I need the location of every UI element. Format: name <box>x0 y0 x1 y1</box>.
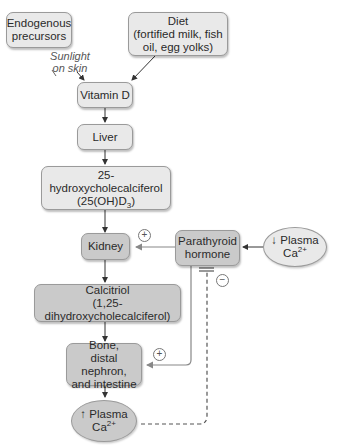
node-text: Calcitriol <box>85 284 129 297</box>
node-text: ↑ Plasma <box>80 408 127 421</box>
node-diet: Diet (fortified milk, fish oil, egg yolk… <box>128 12 228 56</box>
node-text: Diet <box>168 15 188 28</box>
node-endogenous-precursors: Endogenous precursors <box>6 12 72 48</box>
node-text: oil, egg yolks) <box>143 41 213 54</box>
minus-feedback-icon: − <box>216 274 229 287</box>
label-sunlight-on-skin: Sunlight on skin <box>42 50 98 74</box>
plus-kidney-icon: + <box>138 229 151 242</box>
node-text: (fortified milk, fish <box>133 28 222 41</box>
node-text: Endogenous <box>7 17 72 30</box>
node-text: Parathyroid <box>178 235 237 248</box>
superscript: 2+ <box>298 245 307 254</box>
node-text: ↓ Plasma <box>271 234 318 247</box>
up-arrow-icon: ↑ <box>80 408 86 420</box>
node-text: (25(OH)D3) <box>77 195 135 208</box>
node-vitamin-d: Vitamin D <box>77 82 133 108</box>
node-text: Bone, <box>89 339 119 352</box>
node-text: 25-hydroxycholecalciferol <box>42 169 170 195</box>
node-text: Ca2+ <box>283 247 307 260</box>
node-text: Vitamin D <box>80 89 130 102</box>
node-text: and intestine <box>71 378 136 391</box>
formula-text: ) <box>131 195 135 207</box>
label-text: on skin <box>42 62 98 74</box>
superscript: 2+ <box>107 419 116 428</box>
down-arrow-icon: ↓ <box>271 234 277 246</box>
node-low-plasma-calcium: ↓ Plasma Ca2+ <box>263 227 327 267</box>
node-kidney: Kidney <box>81 233 130 260</box>
node-bone-nephron-intestine: Bone, distal nephron, and intestine <box>66 343 142 386</box>
node-liver: Liver <box>77 124 133 150</box>
node-text: precursors <box>12 30 66 43</box>
formula-text: (25(OH)D <box>77 195 127 207</box>
node-25-hydroxycholecalciferol: 25-hydroxycholecalciferol (25(OH)D3) <box>41 166 171 210</box>
node-parathyroid-hormone: Parathyroid hormone <box>175 230 240 266</box>
node-high-plasma-calcium: ↑ Plasma Ca2+ <box>71 400 137 442</box>
node-text: distal nephron, <box>67 352 141 378</box>
node-text: Liver <box>93 131 118 144</box>
node-text: Kidney <box>88 240 123 253</box>
plus-bone-icon: + <box>153 348 166 361</box>
node-calcitriol: Calcitriol (1,25-dihydroxycholecalcifero… <box>34 284 181 322</box>
node-text: Ca <box>283 247 298 259</box>
node-text: Ca2+ <box>92 421 116 434</box>
node-text: (1,25-dihydroxycholecalciferol) <box>35 297 180 323</box>
label-text: Sunlight <box>42 50 98 62</box>
node-text: hormone <box>185 248 230 261</box>
node-text: Ca <box>92 421 107 433</box>
